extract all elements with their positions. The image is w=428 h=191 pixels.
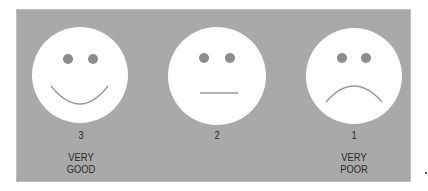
score-label-3: 3 (64, 129, 98, 141)
label-very-poor-line2: POOR (329, 163, 380, 175)
score-label-1: 1 (337, 129, 371, 141)
happy-face-icon (32, 27, 128, 123)
sad-face-icon (306, 28, 402, 124)
label-very-good-line1: VERY (56, 151, 107, 163)
score-label-2: 2 (200, 129, 234, 141)
period-mark (425, 172, 427, 174)
label-very-poor-line1: VERY (329, 151, 380, 163)
neutral-face-icon (168, 27, 266, 125)
label-very-good-line2: GOOD (56, 163, 107, 175)
